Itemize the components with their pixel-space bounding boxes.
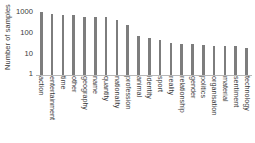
bar [83,17,86,75]
x-tick-label: politics [200,76,208,98]
bar-cell [155,0,166,75]
bar-cell [133,0,144,75]
x-tick-label: entertainment [48,76,56,120]
x-label-cell: relationship [176,76,187,143]
x-tick-label: organisation [210,76,218,115]
x-tick-label: gender [189,76,197,98]
x-label-cell: gender [187,76,198,143]
bar-cell [58,0,69,75]
chart-figure: Number of samples 1000100101 actionenter… [0,0,255,143]
bar-cell [198,0,209,75]
bar-cell [144,0,155,75]
bar-cell [79,0,90,75]
bar-cell [36,0,47,75]
y-tick-10: 10 [3,50,33,58]
y-tick-1000: 1000 [3,8,33,16]
x-label-cell: entertainment [47,76,58,143]
x-tick-label: sport [156,76,164,92]
bar [40,12,43,75]
bar-cell [241,0,252,75]
x-label-cell: profession [122,76,133,143]
x-tick-label: nationality [113,76,121,108]
x-tick-label: action [38,76,46,95]
x-label-cell: geography [79,76,90,143]
bar-cell [101,0,112,75]
x-label-cell: politics [198,76,209,143]
x-tick-label: identity [146,76,154,99]
bar-cell [230,0,241,75]
x-label-cell: sport [155,76,166,143]
y-tick-1: 1 [3,70,33,78]
bar [213,46,216,75]
x-tick-label: sentiment [232,76,240,107]
x-tick-label: relationship [178,76,186,113]
x-label-cell: time [58,76,69,143]
bar-cell [112,0,123,75]
x-tick-label: name [92,76,100,94]
x-tick-label: quantity [102,76,110,101]
x-tick-label: material [221,76,229,102]
x-label-cell: animal [133,76,144,143]
x-label-cell: nationality [112,76,123,143]
x-tick-label: profession [124,76,132,109]
bar [62,15,65,76]
x-label-cell: organisation [209,76,220,143]
x-tick-label: animal [135,76,143,97]
bar-cell [176,0,187,75]
bar [234,46,237,75]
y-axis-tick-labels: 1000100101 [0,0,33,143]
bar [51,14,54,75]
bar-cell [122,0,133,75]
bar [202,45,205,75]
bar-cell [209,0,220,75]
bar [159,40,162,75]
bar [72,15,75,75]
bar [94,17,97,75]
bar-cell [187,0,198,75]
x-tick-label: technology [243,76,251,111]
bar [105,17,108,75]
x-label-cell: identity [144,76,155,143]
bar [116,20,119,76]
bar-cell [166,0,177,75]
x-label-cell: name [90,76,101,143]
x-tick-label: time [59,76,67,90]
x-tick-label: other [70,76,78,92]
bar [137,36,140,75]
bar [180,44,183,75]
x-label-cell: technology [241,76,252,143]
bar [126,25,129,75]
bar [245,48,248,75]
bar-cell [47,0,58,75]
x-label-cell: quantity [101,76,112,143]
x-label-cell: reality [166,76,177,143]
bar [191,44,194,75]
x-tick-label: geography [81,76,89,110]
x-label-cell: sentiment [230,76,241,143]
x-tick-label: reality [167,76,175,95]
bar [224,46,227,75]
bar-cell [90,0,101,75]
x-axis-tick-labels: actionentertainmenttimeothergeographynam… [36,76,252,143]
x-label-cell: material [220,76,231,143]
bar-series [36,0,252,75]
x-label-cell: action [36,76,47,143]
bar-cell [68,0,79,75]
y-tick-100: 100 [3,29,33,37]
bar-cell [220,0,231,75]
bar [148,38,151,75]
bar [170,43,173,75]
x-label-cell: other [68,76,79,143]
